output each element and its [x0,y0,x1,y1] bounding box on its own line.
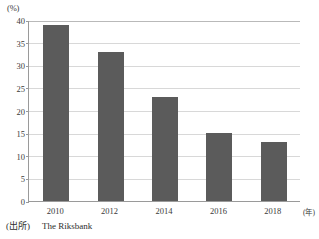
bar [206,133,232,201]
source-label: (出所) [6,219,30,232]
y-tick-label: 10 [0,152,25,162]
y-axis-unit-label: (%) [7,3,19,13]
y-tick-mark [26,202,29,203]
x-tick-label: 2018 [264,206,281,216]
y-tick-label: 35 [0,39,25,49]
x-tick-label: 2016 [210,206,227,216]
y-tick-label: 0 [0,197,25,207]
x-tick-label: 2014 [156,206,173,216]
chart-figure: (%) 0510152025303540 2010201220142016201… [0,0,319,239]
bar [261,142,287,201]
y-tick-label: 15 [0,129,25,139]
bar [98,52,124,201]
x-tick-label: 2010 [47,206,64,216]
x-tick-label: 2012 [101,206,118,216]
plot-area [28,21,300,202]
x-axis-unit-label: (年) [303,206,315,217]
source-text: The Riksbank [42,221,92,231]
source-line: (出所)The Riksbank [6,219,92,232]
bar-series [29,21,300,201]
y-tick-label: 5 [0,174,25,184]
y-tick-label: 30 [0,61,25,71]
y-tick-label: 40 [0,16,25,26]
bar [43,25,69,201]
bar [152,97,178,201]
y-tick-label: 20 [0,107,25,117]
y-tick-label: 25 [0,84,25,94]
